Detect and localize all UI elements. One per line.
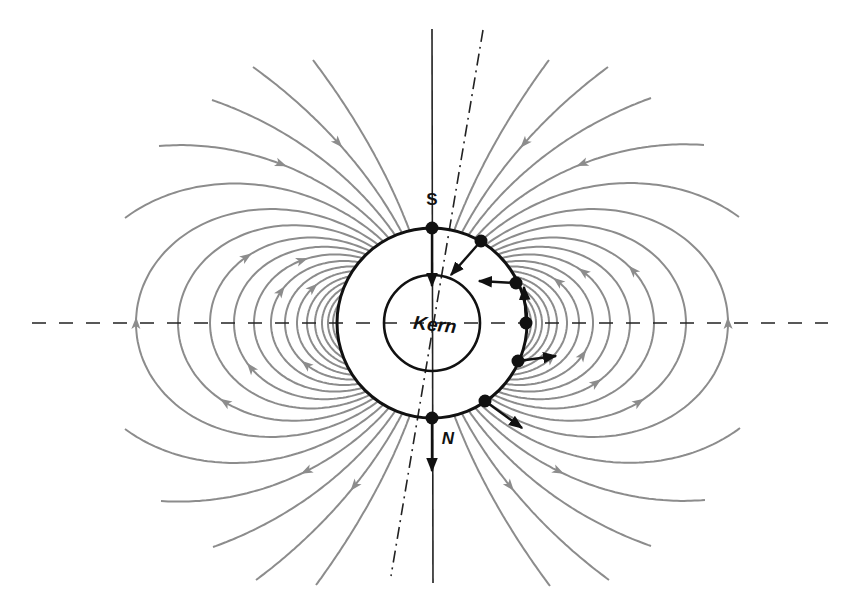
- open-field-line: [253, 67, 402, 233]
- upper-low-latitude-point: [479, 277, 523, 290]
- field-direction-arrow-icon: [632, 395, 647, 409]
- south-pole-label: S: [426, 190, 437, 209]
- open-field-line: [213, 411, 395, 547]
- field-direction-arrow-icon: [551, 465, 566, 478]
- field-direction-arrow-icon: [299, 464, 314, 477]
- open-field-line: [469, 411, 651, 546]
- north-pole-label: N: [442, 429, 455, 448]
- open-field-line: [481, 183, 739, 241]
- surface-point-dot: [510, 277, 523, 290]
- surface-point-dot: [520, 317, 533, 330]
- rotation-axis-line: [432, 29, 433, 583]
- open-field-line: [159, 145, 389, 238]
- surface-point-dot: [426, 222, 439, 235]
- surface-point-dot: [512, 355, 525, 368]
- open-field-line: [125, 405, 383, 463]
- field-direction-arrow-icon: [218, 395, 233, 409]
- open-field-line: [462, 67, 608, 233]
- surface-point-dot: [426, 412, 439, 425]
- open-field-line: [256, 413, 402, 580]
- field-direction-arrow-icon: [295, 254, 309, 266]
- surface-point-dot: [475, 235, 488, 248]
- open-field-line: [125, 184, 383, 242]
- surface-point-dot: [479, 395, 492, 408]
- field-direction-arrow-icon: [575, 158, 589, 171]
- core-label: Kern: [412, 312, 457, 337]
- north-pole-point: [426, 412, 439, 472]
- open-field-line: [475, 144, 704, 238]
- field-vector-arrow-icon: [451, 241, 481, 275]
- axes: [32, 29, 828, 583]
- field-direction-arrow-icon: [274, 158, 288, 171]
- open-field-line: [481, 405, 740, 463]
- magnetic-axis-line: [391, 30, 483, 576]
- open-field-line: [462, 413, 609, 580]
- open-field-line: [212, 100, 395, 235]
- upper-mid-latitude-point: [451, 235, 488, 276]
- open-field-line: [468, 98, 651, 235]
- earth-magnetic-field-diagram: S N Kern: [0, 0, 848, 612]
